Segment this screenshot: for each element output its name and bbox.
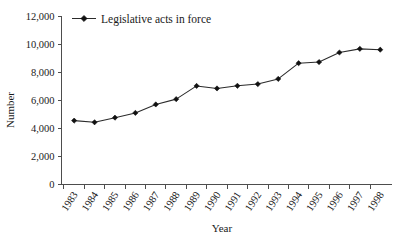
y-axis-ticks	[58, 16, 62, 185]
data-point-marker	[194, 83, 199, 88]
y-axis-tick-labels: 02,0004,0006,0008,00010,00012,000	[26, 11, 55, 191]
x-tick-label: 1995	[304, 190, 325, 214]
data-point-marker	[357, 46, 362, 51]
data-point-marker	[378, 47, 383, 52]
data-point-marker	[316, 59, 321, 64]
data-point-marker	[72, 118, 77, 123]
y-tick-label: 0	[49, 179, 54, 190]
series-markers-legislative-acts	[72, 46, 383, 125]
y-tick-label: 4,000	[31, 123, 55, 134]
y-tick-label: 8,000	[31, 67, 55, 78]
x-axis-title: Year	[212, 222, 233, 234]
legend: Legislative acts in force	[72, 13, 211, 26]
data-point-marker	[92, 120, 97, 125]
x-tick-label: 1986	[120, 190, 141, 214]
x-tick-label: 1985	[100, 190, 121, 214]
legend-label-legislative-acts: Legislative acts in force	[101, 13, 211, 26]
legend-marker-sample	[81, 15, 87, 21]
y-tick-label: 10,000	[26, 39, 55, 50]
data-point-marker	[153, 102, 158, 107]
y-tick-label: 12,000	[26, 11, 55, 22]
x-tick-label: 1991	[222, 190, 243, 214]
data-point-marker	[112, 115, 117, 120]
x-tick-label: 1993	[263, 190, 284, 214]
x-tick-label: 1998	[365, 190, 386, 214]
data-point-marker	[337, 50, 342, 55]
x-tick-label: 1987	[141, 190, 162, 214]
x-tick-label: 1988	[161, 190, 182, 214]
chart-figure: Number Year 02,0004,0006,0008,00010,0001…	[0, 0, 404, 240]
data-point-marker	[235, 83, 240, 88]
x-axis-ticks	[64, 185, 370, 189]
data-point-marker	[255, 82, 260, 87]
x-tick-label: 1989	[182, 190, 203, 214]
x-tick-label: 1984	[80, 189, 101, 213]
data-point-marker	[214, 86, 219, 91]
x-tick-label: 1990	[202, 190, 223, 214]
axis-lines	[62, 16, 393, 185]
x-tick-label: 1983	[59, 190, 80, 214]
x-tick-label: 1996	[324, 190, 345, 214]
data-point-marker	[133, 110, 138, 115]
data-point-marker	[174, 97, 179, 102]
series-line-legislative-acts	[74, 49, 380, 122]
x-tick-label: 1997	[345, 190, 366, 214]
y-tick-label: 6,000	[31, 95, 55, 106]
y-tick-label: 2,000	[31, 151, 55, 162]
x-axis-tick-labels: 1983198419851986198719881989199019911992…	[59, 189, 386, 213]
x-tick-label: 1994	[284, 189, 305, 213]
line-chart: Number Year 02,0004,0006,0008,00010,0001…	[0, 0, 404, 240]
y-axis-title: Number	[4, 92, 16, 128]
x-tick-label: 1992	[243, 190, 264, 214]
